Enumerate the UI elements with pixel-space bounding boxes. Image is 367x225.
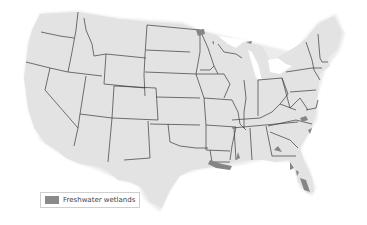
us-land [24,12,342,208]
legend: Freshwater wetlands [40,192,140,208]
legend-label: Freshwater wetlands [63,196,135,204]
freshwater-wetlands-swatch [45,196,59,204]
